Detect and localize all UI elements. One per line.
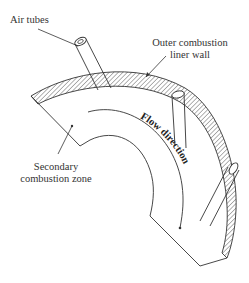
outer-liner-label-line1: Outer combustion	[140, 37, 240, 49]
arrow-head-icon	[179, 227, 182, 230]
flow-direction-text: Flow direction	[139, 110, 192, 165]
outer-liner-label-line2: liner wall	[140, 49, 240, 61]
air-tubes-label: Air tubes	[10, 14, 49, 26]
svg-text:Flow direction: Flow direction	[139, 110, 192, 165]
secondary-zone-label: Secondary combustion zone	[8, 161, 104, 185]
outer-liner-label: Outer combustion liner wall	[140, 37, 240, 61]
secondary-zone-label-line1: Secondary	[8, 161, 104, 173]
secondary-zone-label-line2: combustion zone	[8, 173, 104, 185]
